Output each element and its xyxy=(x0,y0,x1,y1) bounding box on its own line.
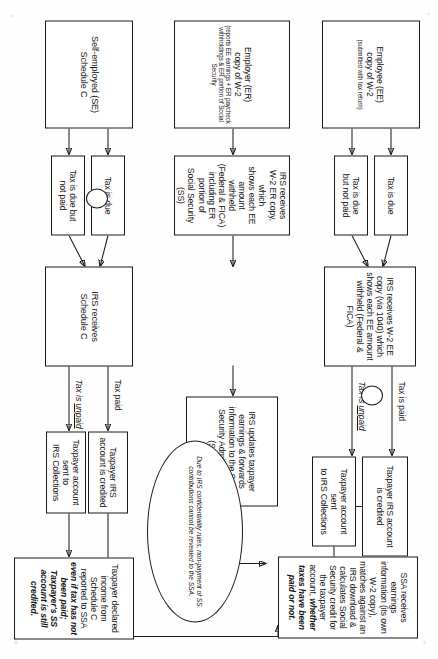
edge-label-ee-tax-is-paid: Tax is paid xyxy=(397,381,407,421)
note-irs-confidentiality xyxy=(361,385,383,405)
edge-label-se-tax-is-unpaid: Tax is unpaid xyxy=(74,379,84,428)
node-ee-taxpayer-irs-account-credited: Taxpayer IRS account is credited xyxy=(362,456,408,556)
scanned-flowchart-page: Employee (EE) copy of W-2 (submitted wit… xyxy=(0,0,438,659)
node-se-taxpayer-account-collections: Taxpayer account sent to IRS Collections xyxy=(46,431,86,513)
node-selfemployed-source: Self-employed (SE) Schedule C xyxy=(45,20,133,128)
node-se-tax-due-not-paid: Tax is due but not paid xyxy=(51,155,85,235)
se-credited-line1: Taxpayer IRS xyxy=(108,447,118,497)
irs-schedule-c-line1: IRS receives xyxy=(90,291,100,341)
ssa-box-plain-text: SSA receives earnings information (its o… xyxy=(308,561,409,634)
se-tax-due-not-paid-line2: not paid xyxy=(58,180,68,210)
employee-source-subtext: (submitted with tax return) xyxy=(357,24,364,124)
se-collections-line1: Taxpayer account sent to xyxy=(61,439,81,505)
note-irs-confidentiality-ellipse xyxy=(86,188,108,208)
node-employee-source: Employee (EE) copy of W-2 (submitted wit… xyxy=(322,20,420,128)
schedule-c-result-emphasis: even if tax has not been paid; Taxpayer'… xyxy=(29,561,80,634)
irs-er-copy-line4: withheld xyxy=(227,180,237,211)
confidentiality-note-shape: Due to IRS confidentiality rules, non-pa… xyxy=(147,440,243,622)
irs-er-copy-line2: W-2 ER copy, which xyxy=(257,169,277,220)
selfemployed-source-line2: Schedule C xyxy=(79,51,89,97)
ee-credited-line2: is credited xyxy=(375,487,385,525)
ee-collections-line2: to IRS Collections xyxy=(319,468,329,535)
scan-speck xyxy=(427,12,430,15)
se-tax-is-unpaid-word: unpaid xyxy=(74,403,84,428)
se-credited-line2: account is credited xyxy=(98,437,108,507)
node-ee-tax-due-not-paid: Tax is due but not paid xyxy=(334,155,368,235)
selfemployed-source-line1: Self-employed (SE) xyxy=(90,35,100,112)
irs-er-copy-line6: including ER portion of xyxy=(197,171,217,218)
schedule-c-result-plain: Taxpayer declared income from Schedule C… xyxy=(79,564,119,633)
node-irs-receives-schedule-c: IRS receives Schedule C xyxy=(45,266,133,366)
irs-er-copy-line1: IRS receives xyxy=(278,171,288,219)
employee-source-line1: Employee (EE) xyxy=(375,46,385,103)
node-irs-receives-ee-copy: IRS receives W-2 EE copy (via 1040) whic… xyxy=(324,266,416,366)
se-tax-paid-text: Tax paid xyxy=(113,379,123,410)
ee-tax-is-paid-text: Tax is paid xyxy=(397,381,407,421)
se-collections-line2: IRS Collections xyxy=(51,443,61,500)
scan-speck xyxy=(14,640,18,644)
edge-label-se-tax-paid: Tax paid xyxy=(113,379,123,410)
ee-tax-due-not-paid-line1: Tax is due xyxy=(351,176,361,214)
se-tax-is-unpaid-prefix: Tax is xyxy=(74,379,84,403)
employer-source-line2: copy of W-2 xyxy=(233,52,243,97)
employee-source-line2: copy of W-2 xyxy=(365,52,375,97)
irs-er-copy-line7: Social Security (SS) xyxy=(176,167,196,222)
node-employer-source: Employer (ER) copy of W-2 (reports EE ea… xyxy=(174,20,290,128)
confidentiality-note-text: Due to IRS confidentiality rules, non-pa… xyxy=(187,450,203,612)
flowchart-canvas: Employee (EE) copy of W-2 (submitted wit… xyxy=(0,0,438,659)
ee-tax-due-not-paid-line2: but not paid xyxy=(341,173,351,217)
se-tax-due-not-paid-line1: Tax is due but xyxy=(68,169,78,221)
node-schedule-c-reported-to-ssa: Taxpayer declared income from Schedule C… xyxy=(14,557,134,639)
irs-receives-ee-copy-text: IRS receives W-2 EE copy (via 1040) whic… xyxy=(345,270,396,362)
ee-credited-line1: Taxpayer IRS account xyxy=(385,465,395,547)
node-irs-receives-er-copy: IRS receives W-2 ER copy, which shows ea… xyxy=(174,155,290,235)
employer-source-line1: Employer (ER) xyxy=(243,46,253,101)
node-ee-taxpayer-account-collections: Taxpayer account sent to IRS Collections xyxy=(312,456,356,546)
node-ee-tax-is-due: Tax is due xyxy=(374,155,408,235)
ee-collections-line1: Taxpayer account sent xyxy=(329,468,349,534)
node-se-taxpayer-irs-account-credited: Taxpayer IRS account is credited xyxy=(88,431,128,513)
irs-er-copy-line5: (Federal & FICA) xyxy=(217,163,227,226)
irs-er-copy-line3: shows each EE amount xyxy=(237,166,257,224)
node-ssa-receives-earnings: SSA receives earnings information (its o… xyxy=(278,556,418,638)
scan-speck xyxy=(11,14,14,17)
scan-speck xyxy=(423,640,426,644)
irs-schedule-c-line2: Schedule C xyxy=(79,293,89,339)
ee-tax-is-due-label: Tax is due xyxy=(386,159,396,231)
ee-tax-is-unpaid-word: unpaid xyxy=(357,405,367,430)
employer-source-subtext: (reports EE earnings + ER paycheck withh… xyxy=(211,24,232,124)
